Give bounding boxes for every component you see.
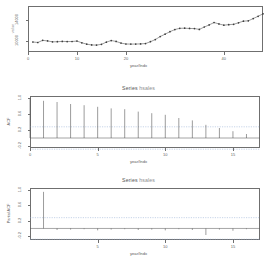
pacf-x-tick-mark (98, 240, 99, 243)
pacf-y-tick: 0.6 (17, 197, 22, 213)
acf-title: Series hsales (0, 85, 277, 91)
acf-y-axis-label: ACF (6, 102, 11, 142)
acf-x-tick: 5 (88, 152, 108, 157)
acf-y-tick: 0.2 (17, 122, 22, 138)
ts-x-tick: 40 (214, 56, 234, 61)
acf-x-tick: 15 (223, 152, 243, 157)
acf-y-tick-mark (28, 130, 31, 131)
acf-x-axis-label: year/Indx (0, 159, 277, 164)
pacf-spikes (30, 188, 260, 240)
ts-y-tick: 14000 (14, 9, 19, 29)
pacf-y-tick-mark (28, 190, 31, 191)
pacf-x-tick: 15 (223, 244, 243, 249)
ts-data-layer (28, 6, 263, 52)
ts-x-tick: 0 (18, 56, 38, 61)
ts-y-tick-mark (26, 41, 29, 42)
pacf-y-tick-mark (28, 236, 31, 237)
acf-x-tick: 10 (155, 152, 175, 157)
pacf-data-layer (30, 188, 260, 240)
acf-x-tick-mark (98, 148, 99, 151)
pacf-y-tick: -0.2 (17, 228, 22, 244)
ts-x-tick: 20 (116, 56, 136, 61)
pacf-series-name: hsales (139, 177, 155, 183)
acf-y-tick-mark (28, 146, 31, 147)
ts-y-tick-mark (26, 20, 29, 21)
pacf-panel: Series hsales Partial ACF -0.20.20.61.0 … (0, 176, 277, 268)
pacf-x-tick: 5 (88, 244, 108, 249)
ts-x-tick-mark (77, 52, 78, 55)
ts-x-tick-mark (126, 52, 127, 55)
acf-series-name: hsales (139, 85, 155, 91)
pacf-title-text: Series (122, 177, 138, 183)
pacf-y-axis-label: Partial ACF (6, 194, 11, 234)
pacf-y-tick-mark (28, 221, 31, 222)
acf-x-tick: 0 (20, 152, 40, 157)
pacf-x-tick-mark (165, 240, 166, 243)
r-graphics-figure: value 1000014000 0102040 year/Indx Serie… (0, 0, 277, 268)
acf-spikes (30, 96, 260, 148)
ts-y-tick: 10000 (14, 31, 19, 51)
acf-x-tick-mark (233, 148, 234, 151)
acf-y-tick-mark (28, 98, 31, 99)
acf-x-tick-mark (165, 148, 166, 151)
acf-data-layer (30, 96, 260, 148)
acf-y-tick: 1.0 (17, 90, 22, 106)
ts-x-tick: 10 (67, 56, 87, 61)
time-series-panel: value 1000014000 0102040 year/Indx (0, 0, 277, 84)
acf-y-tick: 0.6 (17, 106, 22, 122)
ts-x-axis-label: year/Indx (0, 63, 277, 68)
acf-x-tick-mark (30, 148, 31, 151)
pacf-x-tick-mark (233, 240, 234, 243)
acf-y-tick-mark (28, 114, 31, 115)
pacf-y-tick: 0.2 (17, 212, 22, 228)
pacf-x-tick: 10 (155, 244, 175, 249)
pacf-y-tick: 1.0 (17, 181, 22, 197)
pacf-title: Series hsales (0, 177, 277, 183)
pacf-x-axis-label: year/Indx (0, 251, 277, 256)
pacf-y-tick-mark (28, 205, 31, 206)
acf-title-text: Series (122, 85, 138, 91)
acf-panel: Series hsales ACF -0.20.20.61.0 051015 y… (0, 84, 277, 176)
ts-x-tick-mark (28, 52, 29, 55)
ts-line-series (28, 6, 263, 52)
ts-x-tick-mark (224, 52, 225, 55)
